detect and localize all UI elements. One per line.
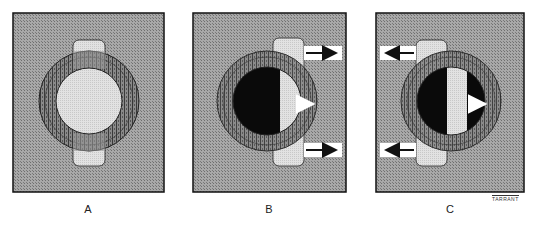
panel-a	[13, 13, 164, 192]
panel-label-c: C	[446, 203, 454, 215]
panel-b	[193, 13, 346, 192]
panel-label-a: A	[84, 203, 91, 215]
diagram-canvas	[0, 0, 537, 225]
panel-label-b: B	[265, 203, 272, 215]
artist-signature: TARRANT	[492, 195, 519, 202]
panel-c	[376, 13, 524, 192]
